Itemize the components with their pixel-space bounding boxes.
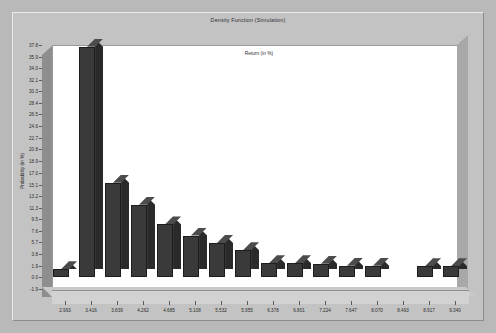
- y-axis-tick-mark: [39, 80, 42, 81]
- y-axis-tick-mark: [39, 91, 42, 92]
- x-axis-tick-label: 5.955: [241, 308, 253, 313]
- y-axis-tick-mark: [39, 126, 42, 127]
- y-axis-tick-label: 7.6: [32, 228, 38, 233]
- bar: [131, 197, 147, 278]
- y-axis-tick-label: 34.0: [29, 66, 38, 71]
- x-axis-tick-mark: [143, 301, 144, 305]
- bar-front-face: [443, 266, 459, 277]
- bar-front-face: [339, 266, 355, 278]
- x-axis-tick-mark: [325, 301, 326, 305]
- y-axis-tick-label: 35.9: [29, 54, 38, 59]
- x-axis-tick-mark: [429, 301, 430, 305]
- y-axis-tick-label: 28.4: [29, 100, 38, 105]
- y-axis-tick-label: 30.3: [29, 89, 38, 94]
- y-axis-tick-mark: [39, 277, 42, 278]
- plot-floor-face: [52, 290, 469, 304]
- x-axis-tick-mark: [377, 301, 378, 305]
- x-axis-tick-mark: [117, 301, 118, 305]
- bar: [443, 258, 459, 277]
- x-axis-label: Return (in %): [42, 51, 476, 56]
- y-axis-tick-label: 5.7: [32, 240, 38, 245]
- y-axis-tick-label: 9.5: [32, 216, 38, 221]
- y-axis-tick-mark: [39, 149, 42, 150]
- y-axis-tick-mark: [39, 185, 42, 186]
- y-axis-tick-mark: [39, 68, 42, 69]
- bar-front-face: [79, 47, 95, 277]
- y-axis-tick-label: 26.5: [29, 112, 38, 117]
- x-axis-tick-label: 8.070: [371, 308, 383, 313]
- y-axis-tick-mark: [39, 208, 42, 209]
- y-axis-tick-label: 1.9: [32, 263, 38, 268]
- chart-title: Density Function (Simulation): [13, 17, 483, 23]
- bar: [157, 216, 173, 277]
- y-axis-tick-mark: [39, 289, 42, 290]
- chart-window: Density Function (Simulation) 37.835.934…: [12, 12, 484, 321]
- plot-area: 37.835.934.032.130.328.426.524.622.720.8…: [42, 35, 476, 307]
- bar: [417, 258, 433, 277]
- y-axis-tick-mark: [39, 57, 42, 58]
- y-axis-tick-mark: [39, 114, 42, 115]
- x-axis-tick-mark: [455, 301, 456, 305]
- x-axis-tick-label: 9.340: [449, 308, 461, 313]
- bar-front-face: [365, 266, 381, 278]
- x-axis-tick-label: 3.839: [111, 308, 123, 313]
- bar-front-face: [287, 263, 303, 277]
- y-axis-tick-label: 20.8: [29, 147, 38, 152]
- x-axis-tick-mark: [299, 301, 300, 305]
- x-axis-tick-mark: [91, 301, 92, 305]
- x-axis-tick-label: 2.993: [59, 308, 71, 313]
- bar-front-face: [183, 236, 199, 278]
- x-axis-tick-label: 4.685: [163, 308, 175, 313]
- y-axis-tick-mark: [39, 254, 42, 255]
- bar-front-face: [261, 263, 277, 277]
- y-axis-tick-label: 0.0: [32, 275, 38, 280]
- y-axis-tick-mark: [39, 266, 42, 267]
- y-axis-tick-label: 17.0: [29, 170, 38, 175]
- y-axis-tick-mark: [39, 103, 42, 104]
- bar-front-face: [131, 205, 147, 278]
- bar-side-face: [173, 216, 181, 269]
- bar-side-face: [95, 39, 103, 269]
- y-axis-tick-mark: [39, 138, 42, 139]
- x-axis-tick-label: 3.416: [85, 308, 97, 313]
- x-axis-tick-label: 6.801: [293, 308, 305, 313]
- bar-front-face: [53, 269, 69, 277]
- y-axis-tick-mark: [39, 242, 42, 243]
- y-axis-tick-label: 3.8: [32, 251, 38, 256]
- x-axis-tick-label: 6.378: [267, 308, 279, 313]
- x-axis-tick-label: 5.532: [215, 308, 227, 313]
- x-axis-ticks: 2.9933.4163.8394.2624.6855.1085.5325.955…: [42, 304, 476, 322]
- x-axis-tick-label: 8.917: [423, 308, 435, 313]
- bar: [235, 242, 251, 277]
- y-axis-tick-mark: [39, 219, 42, 220]
- x-axis-tick-mark: [221, 301, 222, 305]
- x-axis-tick-label: 8.493: [397, 308, 409, 313]
- bar: [365, 258, 381, 278]
- bar: [287, 255, 303, 277]
- x-axis-tick-mark: [169, 301, 170, 305]
- y-axis-tick-label: 22.7: [29, 135, 38, 140]
- x-axis-tick-mark: [273, 301, 274, 305]
- y-axis-tick-label: 18.9: [29, 159, 38, 164]
- x-axis-tick-mark: [247, 301, 248, 305]
- x-axis-tick-mark: [65, 301, 66, 305]
- bar-front-face: [105, 183, 121, 278]
- y-axis-tick-label: 13.2: [29, 194, 38, 199]
- bar-front-face: [417, 266, 433, 277]
- y-axis-tick-mark: [39, 231, 42, 232]
- x-axis-tick-label: 5.108: [189, 308, 201, 313]
- plot-right-wall: [457, 35, 476, 297]
- y-axis-tick-label: 11.3: [29, 205, 38, 210]
- y-axis-tick-mark: [39, 196, 42, 197]
- x-axis-tick-mark: [195, 301, 196, 305]
- x-axis-tick-mark: [351, 301, 352, 305]
- bar: [313, 256, 329, 278]
- y-axis-tick-label: 37.8: [29, 43, 38, 48]
- y-axis-label: Probability (in %): [20, 153, 25, 189]
- bar: [53, 261, 69, 277]
- bar-front-face: [313, 264, 329, 278]
- y-axis-tick-label: 32.1: [29, 78, 38, 83]
- bar: [339, 258, 355, 278]
- bar: [79, 39, 95, 277]
- x-axis-tick-label: 7.224: [319, 308, 331, 313]
